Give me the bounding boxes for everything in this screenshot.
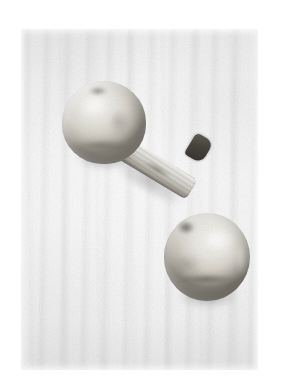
image-caption: Two pale mushrooms on a light vertically… xyxy=(0,0,1,1)
film-grain xyxy=(21,29,258,370)
image-canvas: Two pale mushrooms on a light vertically… xyxy=(0,0,287,387)
photograph xyxy=(21,29,258,370)
